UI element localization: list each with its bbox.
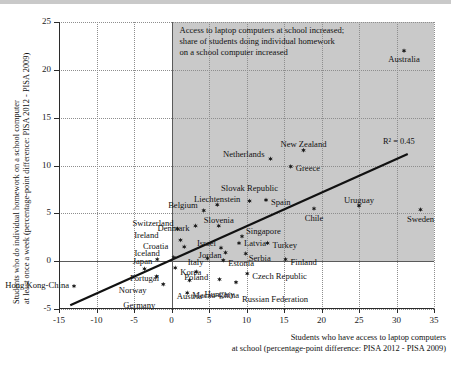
x-axis-tick: [172, 309, 173, 313]
data-point-label: Spain: [271, 197, 291, 207]
data-point-marker: [234, 280, 239, 285]
x-axis-tick-label: 25: [345, 315, 373, 325]
y-axis-tick: [54, 309, 59, 310]
x-axis-tick-label: -5: [120, 315, 148, 325]
data-point-marker: [268, 156, 273, 161]
data-point-marker: [402, 48, 407, 53]
annotation-text: Access to laptop computers at school inc…: [180, 25, 345, 59]
data-point-marker: [154, 274, 159, 279]
data-point-label: Norway: [119, 285, 147, 295]
x-axis-tick: [59, 309, 60, 313]
data-point-label: Singapore: [246, 226, 281, 236]
x-axis-tick-label: 0: [158, 315, 186, 325]
y-axis-tick: [54, 118, 59, 119]
data-point-label: Ireland: [134, 230, 158, 240]
gridline-horizontal: [59, 166, 434, 167]
data-point-marker: [418, 207, 423, 212]
data-point-marker: [223, 250, 228, 255]
data-point-label: Switzerland: [132, 218, 173, 228]
x-axis-tick-label: -10: [83, 315, 111, 325]
data-point-marker: [171, 255, 176, 260]
x-axis-tick: [209, 309, 210, 313]
x-axis-tick: [284, 309, 285, 313]
data-point-label: Liechtenstein: [194, 194, 240, 204]
data-point-label: Japan: [133, 256, 153, 266]
y-axis-tick: [54, 213, 59, 214]
gridline-horizontal: [59, 213, 434, 214]
x-axis-tick-label: 30: [383, 315, 411, 325]
data-point-label: New Zealand: [280, 139, 326, 149]
y-axis-tick: [54, 22, 59, 23]
data-point-label: Israel: [197, 238, 216, 248]
x-axis-tick-label: 15: [270, 315, 298, 325]
y-axis-tick: [54, 70, 59, 71]
data-point-marker: [155, 257, 160, 262]
data-point-marker: [201, 208, 206, 213]
data-point-label: Latvia: [244, 238, 266, 248]
data-point-label: Netherlands: [223, 149, 265, 159]
gridline-horizontal: [59, 118, 434, 119]
data-point-label: Slovak Republic: [221, 183, 278, 193]
data-point-label: Sweden: [407, 214, 434, 224]
data-point-marker: [221, 258, 226, 263]
data-point-marker: [264, 197, 269, 202]
data-point-marker: [288, 164, 293, 169]
y-axis-title: Students who do individual homework on a…: [12, 11, 32, 304]
x-axis-tick-label: 10: [233, 315, 261, 325]
data-point-label: Russian Federation: [242, 294, 308, 304]
data-point-marker: [173, 265, 178, 270]
x-axis-tick: [134, 309, 135, 313]
data-point-label: Australia: [388, 54, 420, 64]
x-axis-tick-label: -15: [45, 315, 73, 325]
y-axis-tick: [54, 261, 59, 262]
data-point-marker: [312, 206, 317, 211]
data-point-label: Italy: [188, 257, 204, 267]
data-point-marker: [237, 240, 242, 245]
data-point-label: Slovenia: [204, 215, 234, 225]
chart-figure: AustraliaSwedenNew ZealandNetherlandsGre…: [0, 0, 451, 376]
x-axis-tick-label: 20: [308, 315, 336, 325]
data-point-marker: [245, 271, 250, 276]
data-point-marker: [217, 277, 222, 282]
data-point-label: Estonia: [228, 258, 254, 268]
x-axis-tick: [434, 309, 435, 313]
gridline-vertical: [434, 22, 435, 309]
x-axis-tick-label: 35: [420, 315, 448, 325]
data-point-marker: [283, 257, 288, 262]
data-point-label: Macao-China: [192, 290, 239, 300]
y-axis-tick: [54, 166, 59, 167]
x-axis-tick-label: 5: [195, 315, 223, 325]
x-axis-tick: [359, 309, 360, 313]
data-point-marker: [247, 198, 252, 203]
x-axis-tick: [397, 309, 398, 313]
y-axis-line: [59, 22, 60, 309]
data-point-label: Belgium: [168, 200, 198, 210]
y-axis-tick-label: -5: [25, 303, 51, 313]
data-point-marker: [265, 240, 270, 245]
x-axis-title: Students who have access to laptop compu…: [210, 333, 446, 354]
data-point-marker: [161, 282, 166, 287]
data-point-marker: [182, 244, 187, 249]
data-point-marker: [187, 278, 192, 283]
data-point-label: Chile: [305, 213, 324, 223]
x-axis-tick: [97, 309, 98, 313]
data-point-label: Finland: [291, 257, 317, 267]
r-squared-label: R² = 0.45: [383, 137, 415, 146]
data-point-marker: [142, 266, 147, 271]
data-point-marker: [205, 256, 210, 261]
data-point-marker: [175, 226, 180, 231]
data-point-label: Turkey: [273, 240, 298, 250]
data-point-marker: [178, 238, 183, 243]
data-point-label: Uruguay: [344, 195, 374, 205]
x-axis-tick: [247, 309, 248, 313]
gridline-horizontal: [59, 70, 434, 71]
plot-area: AustraliaSwedenNew ZealandNetherlandsGre…: [59, 22, 434, 309]
data-point-label: Greece: [296, 163, 320, 173]
data-point-label: Czech Republic: [252, 271, 307, 281]
top-border: [0, 0, 451, 4]
x-axis-tick: [322, 309, 323, 313]
gridline-horizontal: [59, 22, 434, 23]
data-point-marker: [243, 251, 248, 256]
data-point-marker: [185, 290, 190, 295]
data-point-marker: [193, 223, 198, 228]
